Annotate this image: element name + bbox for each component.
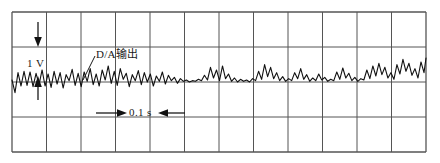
trace-label-d-a-output: D/A输出 [96,45,138,61]
horizontal-scale-label: 0.1 s [129,106,152,118]
vertical-scale-label: 1 V [27,57,45,69]
oscilloscope-screen [0,0,440,163]
